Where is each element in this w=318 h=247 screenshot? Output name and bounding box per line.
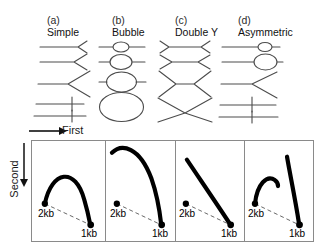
schematic-asym-5 <box>219 111 278 123</box>
gel-panel-bubble[interactable]: 2kb 1kb <box>106 141 176 241</box>
schematic-asym-4 <box>220 97 276 112</box>
label-1kb-bubble: 1kb <box>152 228 168 239</box>
label-1kb-simple: 1kb <box>81 228 97 239</box>
label-2kb-bubble: 2kb <box>110 208 126 219</box>
schematic-bubble-1 <box>113 42 129 52</box>
schematic-simple-4 <box>36 97 84 111</box>
schematic-simple-1 <box>40 41 87 53</box>
gel-panel-double-y[interactable]: 2kb 1kb <box>176 141 245 241</box>
label-2kb-simple: 2kb <box>38 208 54 219</box>
schematic-bubble-3 <box>107 72 137 92</box>
spot-2kb <box>183 201 189 207</box>
label-1kb-asymmetric: 1kb <box>289 228 305 239</box>
asym-short-arc-trace <box>255 179 278 204</box>
gel-trace-double-y <box>176 141 244 241</box>
gel-panel-simple[interactable]: 2kb 1kb <box>32 141 106 241</box>
schematic-bubble-4 <box>100 93 144 122</box>
schematic-bubble-group <box>99 42 146 122</box>
gel-trace-simple <box>32 141 105 241</box>
gel-trace-bubble <box>106 141 175 241</box>
schematic-simple-5 <box>34 110 86 122</box>
schematic-double-y-group <box>158 41 212 122</box>
schematic-double-y-4 <box>158 98 212 122</box>
schematic-double-y-1 <box>160 41 210 53</box>
schematic-simple-3 <box>38 71 90 97</box>
gel-trace-asymmetric <box>245 141 313 241</box>
asym-tall-arc-trace <box>287 157 299 224</box>
schematic-bubble-2 <box>110 55 132 70</box>
schematic-asym-bubble-1 <box>258 43 272 52</box>
label-1kb-double-y: 1kb <box>221 228 237 239</box>
gel-panel-asymmetric[interactable]: 2kb 1kb <box>245 141 313 241</box>
schematic-double-y-2 <box>160 55 210 69</box>
figure-root: (a) Simple (b) Bubble (c) Double Y (d) A… <box>0 0 318 247</box>
first-dimension-label: First <box>62 122 83 138</box>
spot-2kb <box>42 201 48 207</box>
schematic-simple-group <box>34 41 90 122</box>
schematic-structures <box>0 0 318 126</box>
schematic-simple-2 <box>40 54 87 70</box>
spot-2kb <box>114 201 120 207</box>
label-2kb-double-y: 2kb <box>179 208 195 219</box>
gel-panel-row: 2kb 1kb 2kb 1kb 2kb 1kb <box>31 140 314 242</box>
schematic-asym-bubble-2 <box>254 54 277 70</box>
label-2kb-asymmetric: 2kb <box>248 208 264 219</box>
spot-2kb <box>252 201 258 207</box>
schematic-asym-3 <box>221 72 277 98</box>
second-dimension-label: Second <box>7 151 21 207</box>
schematic-asymmetric-group <box>219 43 283 124</box>
schematic-double-y-3 <box>159 71 211 97</box>
